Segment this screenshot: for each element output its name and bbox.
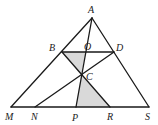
label-m: M: [4, 111, 14, 122]
label-r: R: [106, 111, 113, 122]
label-a: A: [87, 4, 95, 15]
label-d: D: [115, 42, 124, 53]
segment-as: [92, 18, 149, 107]
label-b: B: [49, 42, 55, 53]
label-o: O: [84, 41, 91, 52]
label-n: N: [30, 111, 39, 122]
label-p: P: [71, 112, 78, 123]
label-s: S: [145, 111, 150, 122]
label-c: C: [86, 71, 93, 82]
geometry-diagram: A B O D C M N P R S: [0, 0, 158, 125]
